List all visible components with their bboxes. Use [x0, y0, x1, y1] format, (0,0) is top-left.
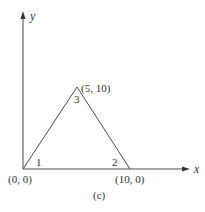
y-axis: y: [21, 9, 37, 169]
coord-label-5-10: (5, 10): [81, 82, 111, 95]
x-axis-label: x: [193, 162, 200, 176]
node-label-3: 3: [74, 93, 80, 105]
node-label-2: 2: [112, 156, 118, 168]
y-axis-arrow-icon: [21, 11, 26, 19]
x-axis-arrow-icon: [182, 167, 190, 172]
coord-label-10-0: (10, 0): [115, 173, 145, 186]
edge-3-2: [77, 87, 130, 169]
edge-1-3: [23, 87, 77, 169]
node-label-1: 1: [36, 156, 42, 168]
triangle-element-diagram: y x 1 2 3 (0, 0) (10, 0) (5, 10) (c): [0, 0, 205, 212]
figure-caption: (c): [93, 189, 106, 202]
coord-label-origin: (0, 0): [8, 173, 32, 186]
y-axis-label: y: [29, 9, 36, 23]
